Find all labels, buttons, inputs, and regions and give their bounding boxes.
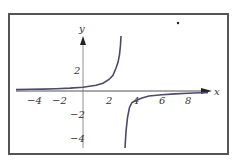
x-axis-label: x bbox=[214, 86, 220, 97]
x-tick-label: −4 bbox=[27, 95, 42, 106]
y-tick-label: −2 bbox=[70, 109, 85, 120]
stray-dot bbox=[177, 22, 179, 24]
curve-left-branch bbox=[16, 36, 121, 90]
function-plot: x y −4 −2 2 4 6 8 2 −2 −4 bbox=[0, 0, 235, 164]
y-tick-label: −4 bbox=[70, 133, 85, 144]
x-tick-label: 2 bbox=[105, 95, 112, 106]
y-axis-arrow-icon bbox=[80, 36, 86, 45]
x-tick-label: −2 bbox=[52, 95, 67, 106]
y-axis-label: y bbox=[78, 23, 85, 34]
x-tick-label: 6 bbox=[159, 95, 166, 106]
x-tick-label: 8 bbox=[185, 95, 191, 106]
y-tick-label: 2 bbox=[73, 65, 80, 76]
